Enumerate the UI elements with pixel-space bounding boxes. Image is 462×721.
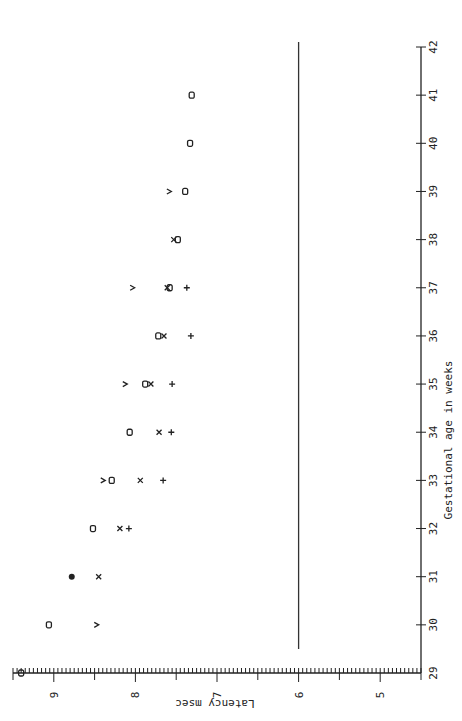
x-tick-label: 34 [427, 425, 440, 439]
x-tick-label: 29 [427, 666, 440, 679]
data-point-x [117, 526, 122, 531]
marker-plus [126, 526, 132, 532]
data-point-plus [160, 477, 166, 483]
marker-v [123, 382, 128, 387]
marker-plus [160, 477, 166, 483]
data-point-x [157, 430, 162, 435]
x-tick-label: 32 [427, 522, 440, 535]
data-points [19, 92, 195, 676]
x-tick-label: 38 [427, 233, 440, 246]
data-point-plus [169, 381, 175, 387]
marker-o [156, 333, 161, 339]
marker-x [161, 333, 166, 338]
data-point-v [101, 478, 106, 483]
data-point-o [188, 140, 193, 146]
y-axis-label: Latency msec [175, 697, 254, 710]
x-tick-label: 33 [427, 474, 440, 487]
data-point-o [109, 477, 114, 483]
marker-o [90, 526, 95, 532]
data-point-filled [69, 574, 75, 580]
marker-plus [168, 429, 174, 435]
x-tick-label: 40 [427, 137, 440, 150]
data-point-o [156, 333, 161, 339]
ticks: 567892930313233343536373839404142 [13, 40, 440, 698]
y-tick-label: 8 [129, 692, 142, 699]
x-tick-label: 42 [427, 40, 440, 53]
data-point-plus [184, 285, 190, 291]
marker-filled [69, 574, 75, 580]
marker-plus [169, 381, 175, 387]
x-axis-label: Gestational age in weeks [442, 361, 455, 520]
y-tick-label: 6 [293, 692, 306, 699]
data-point-o [183, 188, 188, 194]
marker-x [157, 430, 162, 435]
marker-o [189, 92, 194, 98]
x-tick-label: 31 [427, 570, 440, 583]
data-point-plus [188, 333, 194, 339]
data-point-o [46, 622, 51, 628]
marker-plus [188, 333, 194, 339]
marker-x [138, 478, 143, 483]
axes [13, 47, 421, 673]
data-point-v [94, 622, 99, 627]
data-point-o [143, 381, 148, 387]
x-tick-label: 39 [427, 185, 440, 198]
marker-v [101, 478, 106, 483]
x-tick-label: 36 [427, 329, 440, 342]
x-tick-label: 37 [427, 281, 440, 294]
marker-o [127, 429, 132, 435]
data-point-v [123, 382, 128, 387]
y-tick-label: 9 [48, 692, 61, 699]
data-point-x [161, 333, 166, 338]
marker-x [117, 526, 122, 531]
marker-plus [184, 285, 190, 291]
data-point-v [167, 189, 172, 194]
data-point-plus [126, 526, 132, 532]
marker-o [109, 477, 114, 483]
y-tick-label: 5 [374, 692, 387, 699]
x-tick-label: 30 [427, 618, 440, 631]
marker-o [143, 381, 148, 387]
marker-x [96, 574, 101, 579]
marker-x [148, 382, 153, 387]
data-point-o [127, 429, 132, 435]
data-point-plus [168, 429, 174, 435]
marker-v [94, 622, 99, 627]
data-point-o [90, 526, 95, 532]
data-point-x [138, 478, 143, 483]
x-tick-label: 41 [427, 89, 440, 102]
x-tick-label: 35 [427, 377, 440, 390]
marker-v [130, 285, 135, 290]
marker-o [183, 188, 188, 194]
marker-v [167, 189, 172, 194]
data-point-x [148, 382, 153, 387]
marker-o [46, 622, 51, 628]
data-point-v [130, 285, 135, 290]
scatter-chart: 567892930313233343536373839404142 Latenc… [0, 0, 462, 721]
data-point-o [189, 92, 194, 98]
marker-o [188, 140, 193, 146]
data-point-x [96, 574, 101, 579]
